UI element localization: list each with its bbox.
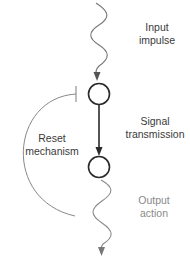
signal-label-line2: transmission — [122, 128, 188, 141]
input-impulse-label: Input impulse — [136, 21, 178, 47]
input-label-line1: Input — [136, 21, 178, 34]
reset-label-line2: mechanism — [24, 145, 80, 158]
signal-arrow — [96, 105, 103, 157]
reset-mechanism-label: Reset mechanism — [24, 132, 80, 158]
output-label-line2: action — [130, 207, 178, 220]
arrowhead-icon — [98, 247, 105, 256]
output-label-line1: Output — [130, 194, 178, 207]
output-wavy-arrow — [93, 180, 111, 256]
output-action-label: Output action — [130, 194, 178, 220]
signal-transmission-label: Signal transmission — [122, 115, 188, 141]
input-wavy-arrow — [91, 3, 108, 81]
input-label-line2: impulse — [136, 34, 178, 47]
arrowhead-icon — [94, 72, 101, 81]
reset-label-line1: Reset — [24, 132, 80, 145]
lower-node — [89, 157, 110, 178]
signal-label-line1: Signal — [122, 115, 188, 128]
upper-node — [89, 84, 110, 105]
arrowhead-icon — [96, 147, 103, 156]
